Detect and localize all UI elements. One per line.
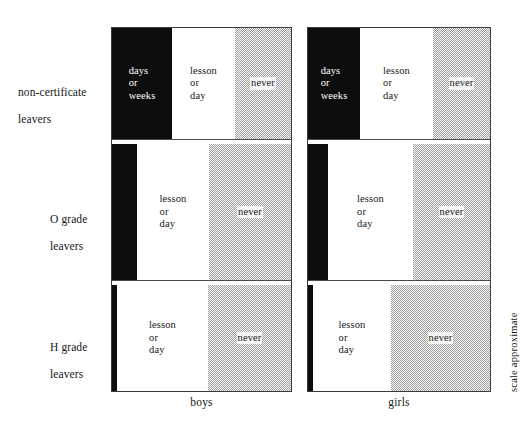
segment-label: never (439, 206, 465, 219)
segment-lesson-or-day: lesson or day (172, 28, 235, 139)
row-label-line: O grade (50, 213, 87, 227)
segment-lesson-or-day: lesson or day (360, 28, 433, 139)
segment-label: never (449, 77, 475, 90)
segment-label: never (250, 77, 276, 90)
segment-days-or-weeks: days or weeks (308, 28, 360, 139)
group-caption-boys: boys (111, 396, 292, 408)
segment-label: lesson or day (149, 319, 176, 357)
segment-never: never (433, 28, 490, 139)
segment-never: never (208, 285, 291, 391)
segment-lesson-or-day: lesson or day (328, 144, 413, 280)
segment-lesson-or-day: lesson or day (137, 144, 209, 280)
row-label-h-grade-leavers: H grade leavers (50, 327, 87, 395)
segment-days-or-weeks: days or weeks (112, 28, 172, 139)
row-label-line: leavers (50, 240, 87, 254)
segment-label: days or weeks (321, 65, 348, 103)
segment-label: never (237, 332, 263, 345)
segment-never: never (391, 285, 490, 391)
segment-days-or-weeks: days or weeks (308, 144, 328, 280)
panel-girls: days or weeks lesson or day never days o… (307, 27, 491, 392)
row-label-o-grade-leavers: O grade leavers (50, 199, 87, 267)
bar-girls-o-grade-leavers: days or weeks lesson or day never (308, 144, 490, 280)
row-label-non-certificate-leavers: non-certificate leavers (18, 72, 87, 140)
segment-label: never (428, 332, 454, 345)
segment-days-or-weeks: days or weeks (112, 144, 137, 280)
bar-girls-h-grade-leavers: days or weeks lesson or day never (308, 285, 490, 391)
segment-lesson-or-day: lesson or day (117, 285, 208, 391)
bar-girls-non-certificate-leavers: days or weeks lesson or day never (308, 28, 490, 139)
row-label-line: H grade (50, 341, 87, 355)
row-divider (308, 280, 490, 281)
segment-label: lesson or day (357, 193, 384, 231)
segment-label: lesson or day (190, 65, 217, 103)
stacked-bar-figure: non-certificate leavers O grade leavers … (0, 0, 527, 424)
group-caption-girls: girls (307, 396, 491, 408)
bar-boys-h-grade-leavers: days or weeks lesson or day never (112, 285, 291, 391)
scale-approximate-note: scale approximate (508, 313, 519, 393)
segment-never: never (235, 28, 291, 139)
row-label-line: leavers (50, 368, 87, 382)
row-label-line: non-certificate (18, 86, 87, 100)
row-divider (112, 280, 291, 281)
bar-boys-o-grade-leavers: days or weeks lesson or day never (112, 144, 291, 280)
segment-lesson-or-day: lesson or day (313, 285, 391, 391)
row-divider (112, 139, 291, 140)
segment-label: lesson or day (160, 193, 187, 231)
panel-boys: days or weeks lesson or day never days o… (111, 27, 292, 392)
bar-boys-non-certificate-leavers: days or weeks lesson or day never (112, 28, 291, 139)
row-label-line: leavers (18, 113, 87, 127)
segment-never: never (413, 144, 490, 280)
row-divider (308, 139, 490, 140)
segment-never: never (209, 144, 291, 280)
segment-label: never (237, 206, 263, 219)
segment-label: days or weeks (129, 65, 156, 103)
segment-label: lesson or day (383, 65, 410, 103)
segment-label: lesson or day (339, 319, 366, 357)
